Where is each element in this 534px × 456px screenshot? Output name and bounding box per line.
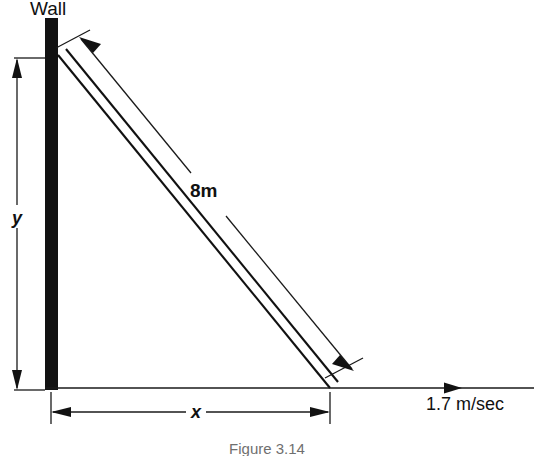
ladder-against-wall-diagram: 8m Wall y x 1.7 m/sec Figure 3.14 [0,0,534,456]
y-dimension-arrow-top-icon [12,58,22,78]
x-dimension-arrow-right-icon [310,407,330,417]
ladder-edge-lower [58,55,330,388]
base-variable-label: x [190,402,202,422]
ladder-length-label: 8m [190,180,217,201]
velocity-label: 1.7 m/sec [426,394,504,414]
velocity-arrow-head-icon [444,383,462,394]
ladder-dimension-line-lower [226,216,352,369]
figure-caption: Figure 3.14 [229,440,305,456]
ladder-edge-upper [66,49,338,382]
x-dimension-arrow-left-icon [51,407,71,417]
figure-container: 8m Wall y x 1.7 m/sec Figure 3.14 [0,0,534,456]
height-variable-label: y [11,208,23,228]
y-dimension-arrow-bottom-icon [12,370,22,390]
wall-bar [45,18,58,390]
ladder-dimension-line-upper [81,39,191,173]
wall-label: Wall [30,0,66,19]
